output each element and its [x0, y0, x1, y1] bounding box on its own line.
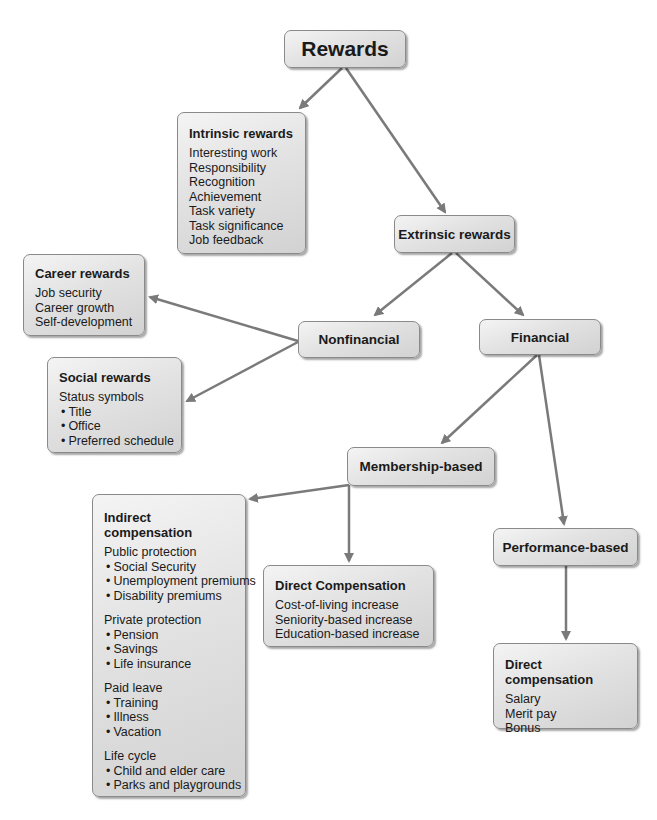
indirect-bullet: Illness	[104, 710, 234, 725]
membership-label: Membership-based	[359, 459, 482, 474]
direct-compensation-membership-node: Direct Compensation Cost-of-living incre…	[263, 565, 434, 647]
social-bullet: Title	[59, 405, 170, 420]
arrow-financial-to-membership	[442, 355, 537, 443]
intrinsic-item: Achievement	[189, 190, 294, 205]
indirect-compensation-node: Indirect compensation Public protection …	[92, 494, 246, 797]
arrow-membership-to-indirect	[250, 485, 349, 499]
indirect-title: Indirect compensation	[104, 510, 234, 540]
indirect-bullet: Child and elder care	[104, 764, 234, 779]
arrow-nonfinancial-to-career	[150, 297, 298, 341]
extrinsic-rewards-node: Extrinsic rewards	[394, 215, 515, 253]
social-rewards-node: Social rewards Status symbols Title Offi…	[47, 357, 182, 453]
indirect-group-heading: Paid leave	[104, 681, 234, 696]
indirect-bullet: Training	[104, 696, 234, 711]
indirect-group-heading: Private protection	[104, 613, 234, 628]
indirect-bullet: Life insurance	[104, 657, 234, 672]
social-bullet: Preferred schedule	[59, 434, 170, 449]
intrinsic-item: Responsibility	[189, 161, 294, 176]
career-item: Self-development	[35, 315, 133, 330]
nonfinancial-node: Nonfinancial	[298, 321, 420, 358]
direct-performance-item: Merit pay	[505, 707, 626, 722]
indirect-bullet: Social Security	[104, 560, 234, 575]
social-heading: Status symbols	[59, 390, 170, 405]
arrow-nonfinancial-to-social	[187, 342, 298, 401]
indirect-bullet: Vacation	[104, 725, 234, 740]
intrinsic-item: Interesting work	[189, 146, 294, 161]
arrow-rewards-to-extrinsic	[346, 68, 445, 212]
extrinsic-label: Extrinsic rewards	[398, 227, 511, 242]
intrinsic-item: Recognition	[189, 175, 294, 190]
direct-membership-item: Seniority-based increase	[275, 613, 422, 628]
rewards-node: Rewards	[284, 30, 406, 68]
career-item: Career growth	[35, 301, 133, 316]
arrow-extrinsic-to-financial	[456, 253, 523, 315]
financial-node: Financial	[479, 319, 601, 355]
intrinsic-item: Job feedback	[189, 233, 294, 248]
direct-membership-item: Education-based increase	[275, 627, 422, 642]
arrow-financial-to-performance	[539, 355, 564, 524]
financial-label: Financial	[511, 330, 570, 345]
intrinsic-title: Intrinsic rewards	[189, 126, 294, 141]
social-bullet: Office	[59, 419, 170, 434]
performance-based-node: Performance-based	[493, 528, 638, 566]
indirect-bullet: Pension	[104, 628, 234, 643]
career-title: Career rewards	[35, 266, 133, 281]
direct-membership-title: Direct Compensation	[275, 578, 422, 593]
intrinsic-item: Task significance	[189, 219, 294, 234]
direct-performance-item: Salary	[505, 692, 626, 707]
intrinsic-item: Task variety	[189, 204, 294, 219]
arrow-extrinsic-to-nonfinancial	[375, 253, 452, 315]
direct-performance-title: Direct compensation	[505, 657, 626, 687]
career-rewards-node: Career rewards Job security Career growt…	[23, 254, 145, 336]
membership-based-node: Membership-based	[347, 447, 495, 486]
career-item: Job security	[35, 286, 133, 301]
indirect-group-heading: Life cycle	[104, 749, 234, 764]
direct-compensation-performance-node: Direct compensation Salary Merit pay Bon…	[493, 643, 638, 729]
social-title: Social rewards	[59, 370, 170, 385]
intrinsic-rewards-node: Intrinsic rewards Interesting work Respo…	[177, 112, 306, 254]
direct-performance-item: Bonus	[505, 721, 626, 736]
indirect-bullet: Savings	[104, 642, 234, 657]
indirect-bullet: Unemployment premiums	[104, 574, 234, 589]
indirect-group-heading: Public protection	[104, 545, 234, 560]
rewards-label: Rewards	[301, 37, 389, 61]
performance-label: Performance-based	[502, 540, 628, 555]
direct-membership-item: Cost-of-living increase	[275, 598, 422, 613]
arrow-rewards-to-intrinsic	[300, 68, 342, 108]
indirect-bullet: Disability premiums	[104, 589, 234, 604]
indirect-bullet: Parks and playgrounds	[104, 778, 234, 793]
nonfinancial-label: Nonfinancial	[318, 332, 399, 347]
